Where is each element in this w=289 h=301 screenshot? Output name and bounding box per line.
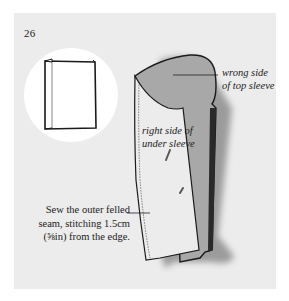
instruction-caption: Sew the outer felled seam, stitching 1.5… xyxy=(32,203,130,244)
label-right-side: right side of under sleeve xyxy=(142,125,195,150)
label-line: wrong side xyxy=(222,67,274,80)
label-line: of top sleeve xyxy=(222,80,274,93)
sleeve-illustration xyxy=(0,0,289,301)
caption-line: Sew the outer felled xyxy=(32,203,130,217)
caption-line: (⅝in) from the edge. xyxy=(32,230,130,244)
label-line: right side of xyxy=(142,125,195,138)
label-wrong-side: wrong side of top sleeve xyxy=(222,67,274,92)
label-line: under sleeve xyxy=(142,138,195,151)
caption-line: seam, stitching 1.5cm xyxy=(32,217,130,231)
